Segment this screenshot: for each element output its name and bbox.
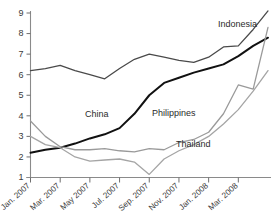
series-labels: IndonesiaChinaPhilippinesThailand — [85, 19, 257, 149]
y-tick-label: 7 — [18, 49, 23, 59]
x-tick-label: Mar. 2007 — [28, 181, 61, 212]
line-chart: 123456789 Jan. 2007Mar. 2007May 2007Jul.… — [0, 0, 273, 219]
series-label-thailand: Thailand — [176, 139, 211, 149]
y-axis: 123456789 — [18, 8, 30, 183]
x-tick-label: Sep. 2007 — [117, 181, 151, 213]
y-tick-label: 5 — [18, 90, 23, 100]
x-tick-label: Nov. 2007 — [147, 181, 181, 213]
series-label-china: China — [85, 109, 109, 119]
series-lines — [31, 11, 269, 174]
x-axis: Jan. 2007Mar. 2007May 2007Jul. 2007Sep. … — [0, 178, 271, 213]
series-label-indonesia: Indonesia — [218, 19, 257, 29]
series-label-philippines: Philippines — [152, 108, 196, 118]
y-tick-label: 8 — [18, 28, 23, 38]
x-tick-label: May 2007 — [58, 181, 91, 212]
series-line-thailand — [31, 71, 269, 175]
y-tick-label: 6 — [18, 70, 23, 80]
y-tick-label: 3 — [18, 131, 23, 141]
x-tick-label: Jan. 2008 — [177, 181, 210, 212]
y-tick-label: 9 — [18, 8, 23, 18]
chart-canvas: 123456789 Jan. 2007Mar. 2007May 2007Jul.… — [0, 0, 273, 219]
y-tick-label: 4 — [18, 111, 23, 121]
x-tick-label: Jan. 2007 — [0, 181, 32, 212]
x-tick-label: Mar. 2008 — [207, 181, 240, 212]
y-tick-label: 2 — [18, 152, 23, 162]
y-tick-label: 1 — [18, 172, 23, 182]
